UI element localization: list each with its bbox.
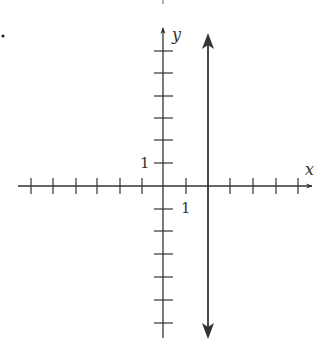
y-tick-label-1: 1 bbox=[140, 154, 150, 172]
x-axis-label: x bbox=[305, 160, 314, 179]
x-tick-label-1: 1 bbox=[181, 199, 191, 217]
y-axis-label: y bbox=[171, 25, 182, 44]
problem-marker bbox=[1, 34, 4, 37]
coordinate-plane: y x 1 1 bbox=[0, 0, 327, 347]
